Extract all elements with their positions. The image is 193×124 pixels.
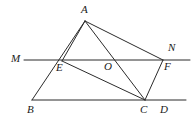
segment-FC (145, 60, 163, 100)
vertex-label-C: C (140, 104, 147, 115)
vertex-label-E: E (56, 62, 63, 73)
vertex-label-A: A (81, 4, 88, 15)
geometry-figure: A M N E O F B C D (0, 0, 193, 124)
vertex-label-N: N (168, 42, 175, 53)
segment-AF (85, 21, 163, 60)
segment-AE (62, 21, 85, 61)
vertex-label-B: B (27, 104, 34, 115)
vertex-label-D: D (160, 104, 168, 115)
vertex-label-M: M (11, 53, 20, 64)
vertex-label-O: O (104, 61, 112, 72)
vertex-label-F: F (164, 61, 171, 72)
